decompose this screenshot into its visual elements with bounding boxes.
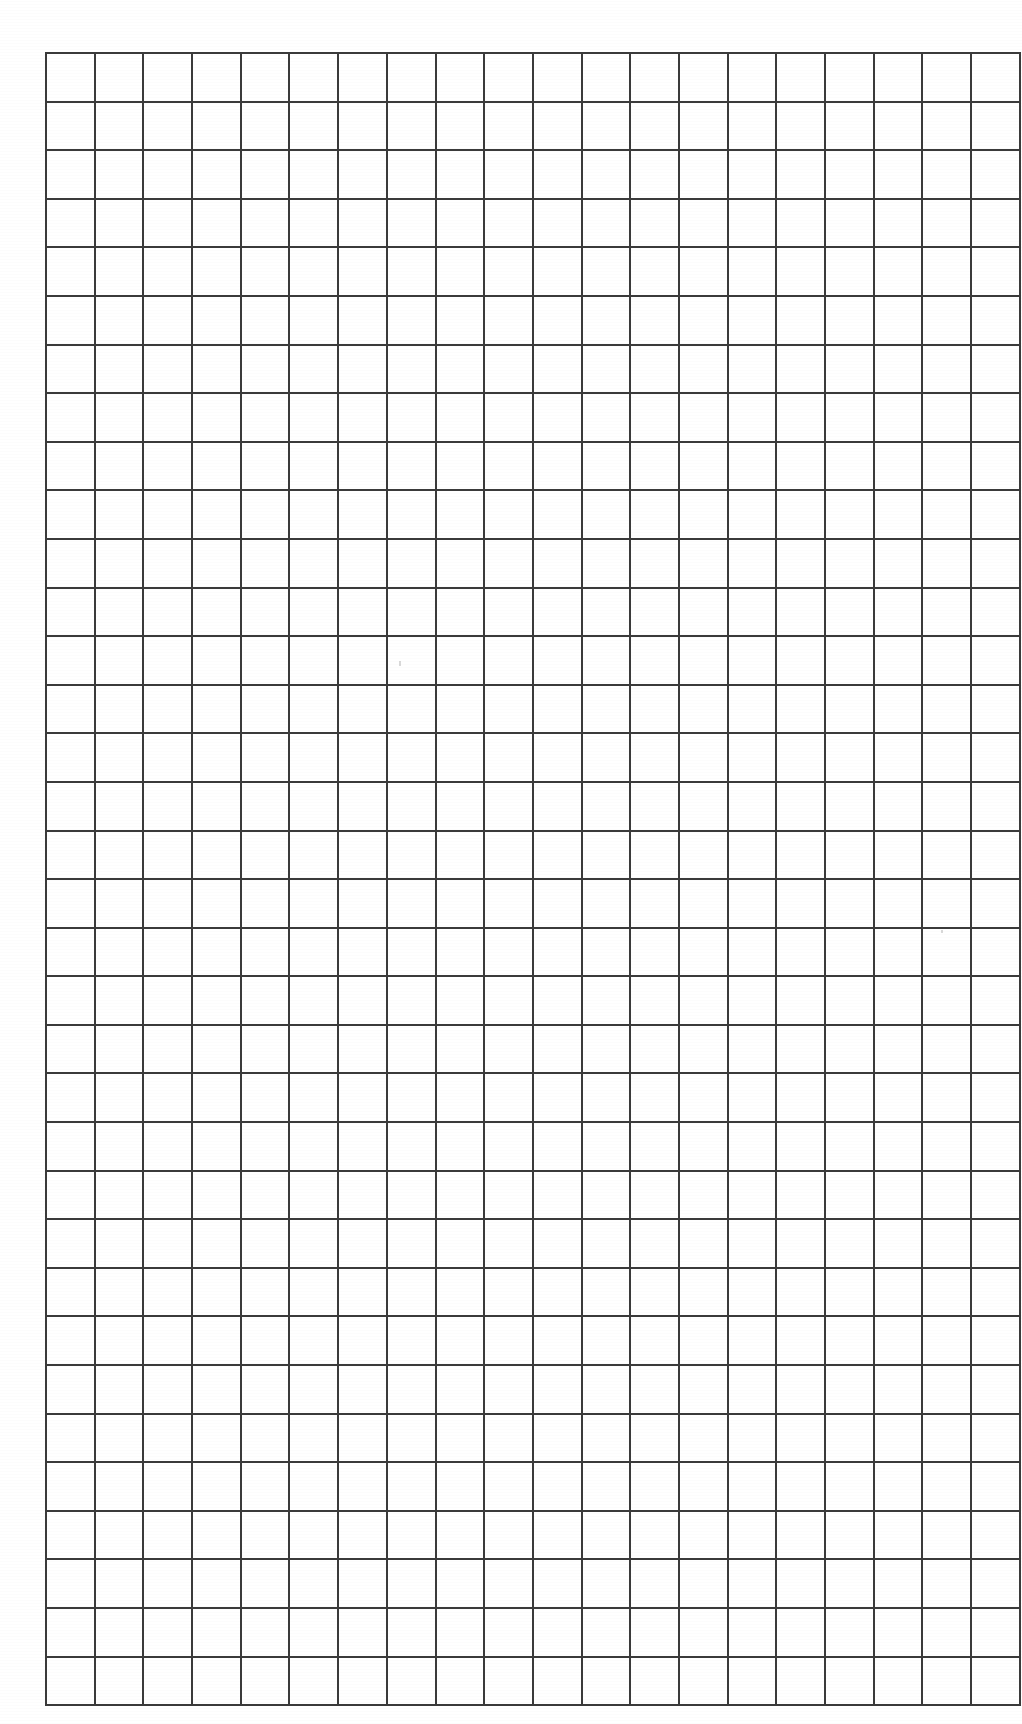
- grid-cell[interactable]: [241, 247, 290, 296]
- grid-cell[interactable]: [679, 442, 728, 491]
- grid-cell[interactable]: [533, 1657, 582, 1706]
- grid-cell[interactable]: [533, 782, 582, 831]
- grid-cell[interactable]: [289, 1608, 338, 1657]
- grid-cell[interactable]: [436, 247, 485, 296]
- grid-cell[interactable]: [484, 345, 533, 394]
- grid-cell[interactable]: [338, 685, 387, 734]
- grid-cell[interactable]: [582, 976, 631, 1025]
- grid-cell[interactable]: [338, 1073, 387, 1122]
- grid-cell[interactable]: [338, 879, 387, 928]
- grid-cell[interactable]: [338, 1462, 387, 1511]
- grid-cell[interactable]: [338, 1171, 387, 1220]
- grid-cell[interactable]: [289, 636, 338, 685]
- grid-cell[interactable]: [922, 296, 971, 345]
- grid-cell[interactable]: [630, 1559, 679, 1608]
- grid-cell[interactable]: [533, 1559, 582, 1608]
- grid-cell[interactable]: [582, 1219, 631, 1268]
- grid-cell[interactable]: [874, 1608, 923, 1657]
- grid-cell[interactable]: [484, 733, 533, 782]
- grid-cell[interactable]: [922, 1171, 971, 1220]
- grid-cell[interactable]: [825, 247, 874, 296]
- grid-cell[interactable]: [95, 1657, 144, 1706]
- grid-cell[interactable]: [484, 1657, 533, 1706]
- grid-cell[interactable]: [95, 1316, 144, 1365]
- grid-cell[interactable]: [436, 1657, 485, 1706]
- grid-cell[interactable]: [387, 1025, 436, 1074]
- grid-cell[interactable]: [825, 588, 874, 637]
- grid-cell[interactable]: [46, 879, 95, 928]
- grid-cell[interactable]: [582, 1608, 631, 1657]
- grid-cell[interactable]: [241, 1462, 290, 1511]
- grid-cell[interactable]: [971, 733, 1020, 782]
- grid-cell[interactable]: [874, 1122, 923, 1171]
- grid-cell[interactable]: [338, 782, 387, 831]
- grid-cell[interactable]: [192, 490, 241, 539]
- grid-cell[interactable]: [484, 1073, 533, 1122]
- grid-cell[interactable]: [387, 588, 436, 637]
- grid-cell[interactable]: [143, 53, 192, 102]
- grid-cell[interactable]: [387, 1511, 436, 1560]
- grid-cell[interactable]: [728, 928, 777, 977]
- grid-cell[interactable]: [338, 296, 387, 345]
- grid-cell[interactable]: [971, 636, 1020, 685]
- grid-cell[interactable]: [728, 831, 777, 880]
- grid-cell[interactable]: [825, 1073, 874, 1122]
- grid-cell[interactable]: [679, 1414, 728, 1463]
- grid-cell[interactable]: [289, 1511, 338, 1560]
- grid-cell[interactable]: [192, 1025, 241, 1074]
- grid-cell[interactable]: [874, 490, 923, 539]
- grid-cell[interactable]: [338, 1559, 387, 1608]
- grid-cell[interactable]: [241, 733, 290, 782]
- grid-cell[interactable]: [241, 1219, 290, 1268]
- grid-cell[interactable]: [728, 1414, 777, 1463]
- grid-cell[interactable]: [533, 1462, 582, 1511]
- grid-cell[interactable]: [95, 53, 144, 102]
- grid-cell[interactable]: [874, 102, 923, 151]
- grid-cell[interactable]: [436, 1316, 485, 1365]
- grid-cell[interactable]: [922, 1073, 971, 1122]
- grid-cell[interactable]: [484, 831, 533, 880]
- grid-cell[interactable]: [971, 1073, 1020, 1122]
- grid-cell[interactable]: [387, 1316, 436, 1365]
- grid-cell[interactable]: [46, 1219, 95, 1268]
- grid-cell[interactable]: [95, 588, 144, 637]
- grid-cell[interactable]: [971, 345, 1020, 394]
- grid-cell[interactable]: [241, 1316, 290, 1365]
- grid-cell[interactable]: [241, 1268, 290, 1317]
- grid-cell[interactable]: [241, 685, 290, 734]
- grid-cell[interactable]: [922, 1316, 971, 1365]
- grid-cell[interactable]: [874, 1025, 923, 1074]
- grid-cell[interactable]: [143, 733, 192, 782]
- grid-cell[interactable]: [533, 539, 582, 588]
- grid-cell[interactable]: [484, 1608, 533, 1657]
- grid-cell[interactable]: [338, 1511, 387, 1560]
- grid-cell[interactable]: [679, 1171, 728, 1220]
- grid-cell[interactable]: [95, 831, 144, 880]
- grid-cell[interactable]: [46, 976, 95, 1025]
- grid-cell[interactable]: [143, 831, 192, 880]
- grid-cell[interactable]: [436, 1219, 485, 1268]
- grid-cell[interactable]: [776, 539, 825, 588]
- grid-cell[interactable]: [192, 831, 241, 880]
- grid-cell[interactable]: [46, 1025, 95, 1074]
- grid-cell[interactable]: [338, 733, 387, 782]
- grid-cell[interactable]: [241, 1511, 290, 1560]
- grid-cell[interactable]: [436, 1268, 485, 1317]
- grid-cell[interactable]: [630, 53, 679, 102]
- grid-cell[interactable]: [630, 1511, 679, 1560]
- grid-cell[interactable]: [143, 296, 192, 345]
- grid-cell[interactable]: [533, 636, 582, 685]
- grid-cell[interactable]: [922, 588, 971, 637]
- grid-cell[interactable]: [338, 1268, 387, 1317]
- grid-cell[interactable]: [241, 53, 290, 102]
- grid-cell[interactable]: [971, 1511, 1020, 1560]
- grid-cell[interactable]: [922, 199, 971, 248]
- grid-cell[interactable]: [582, 879, 631, 928]
- grid-cell[interactable]: [46, 490, 95, 539]
- grid-cell[interactable]: [874, 685, 923, 734]
- grid-cell[interactable]: [533, 199, 582, 248]
- grid-cell[interactable]: [630, 1316, 679, 1365]
- grid-cell[interactable]: [484, 393, 533, 442]
- grid-cell[interactable]: [776, 102, 825, 151]
- grid-cell[interactable]: [436, 1608, 485, 1657]
